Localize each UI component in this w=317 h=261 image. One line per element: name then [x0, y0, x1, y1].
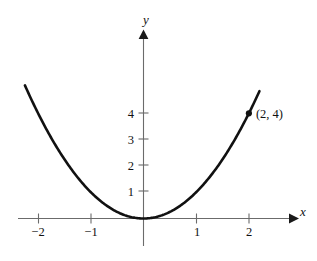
y-tick-label-3: 3: [128, 133, 134, 147]
marked-point-label: (2, 4): [256, 107, 283, 121]
x-tick-label-neg2: −2: [31, 225, 44, 239]
coordinate-plane-svg: −2 −1 1 2 4 3 2 1 x y (2, 4): [0, 0, 317, 261]
x-axis-label: x: [299, 204, 306, 219]
y-tick-label-1: 1: [128, 185, 134, 199]
x-tick-label-pos2: 2: [246, 225, 252, 239]
x-tick-label-pos1: 1: [194, 225, 200, 239]
parabola-graph-figure: −2 −1 1 2 4 3 2 1 x y (2, 4): [0, 0, 317, 261]
y-axis-label: y: [141, 12, 149, 27]
x-tick-label-neg1: −1: [84, 225, 97, 239]
y-tick-label-4: 4: [128, 107, 135, 121]
y-tick-label-2: 2: [128, 159, 134, 173]
marked-point-dot: [246, 110, 252, 116]
